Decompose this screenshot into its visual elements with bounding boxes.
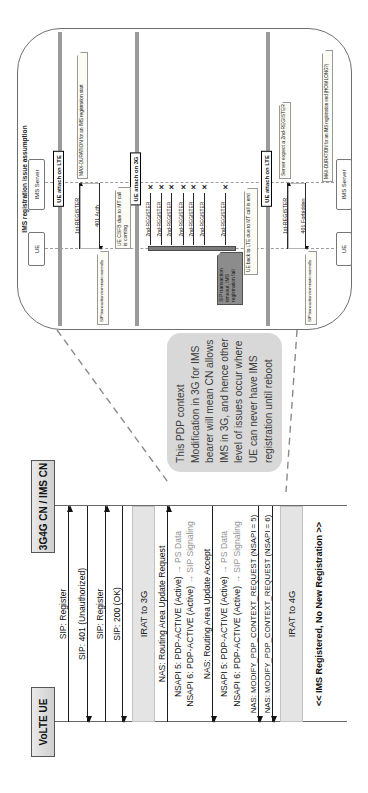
callout-line: registration until reboot [262,333,277,463]
note-back-to-lte: UE back to LTE due to MT call is end [244,188,258,275]
band-irat-to-3g: IRAT to 3G [132,506,155,722]
note-csfb: UE CSFB due to MT call is coming [115,187,131,249]
band-irat-to-4g: IRAT to 4G [280,506,303,722]
note-terminate-normally-2: SIP transaction terminate normally [305,251,317,325]
message-sip-register-1: SIP: Register [56,506,69,722]
callout-line: level of issues occur where [232,333,247,463]
phase-label-lte-2: UE attach on LTE [261,151,272,207]
inset-message-2nd-register: 2nd-REGISTER ✕ [175,193,184,245]
inset-participant-ims-server-top: IMS Server [28,159,45,210]
status-nsapi6-1: NSAPI 6: PDP-ACTIVE (Active) → SIP Signa… [183,506,196,722]
inset-title: IMS registration issue assumption [21,29,28,329]
arrowhead-left-icon [271,716,277,723]
participant-cn: 3G4G CN / IMS CN [31,460,55,553]
callout-line: Modification in 3G for IMS [189,333,204,463]
inset-message-1st-register-1: 1st-REGISTER [71,183,80,249]
inset-message-2nd-register: 2nd-REGISTER ✕ [196,193,205,245]
arrowhead-right-icon [104,505,110,512]
inset-message-2nd-register: 2nd-REGISTER ✕ [142,193,151,245]
message-rau-request: NAS: Routing Area Update Request [155,506,168,722]
arrowhead-right-icon [287,182,291,186]
callout-line: bearer will mean CN allows [203,333,218,463]
phase-label-3g: UE attach on 3G [130,153,141,206]
status-nsapi6-2: NSAPI 6: PDP-ACTIVE (Active) → SIP Signa… [230,506,243,722]
rotated-sequence-diagram: VoLTE UE 3G4G CN / IMS CN SIP: Register … [0,0,368,793]
inset-message-2nd-register: 2nd-REGISTER ✕ [217,193,226,245]
arrowhead-left-icon [86,716,92,723]
inset-message-1st-register-2: 1st-REGISTER [279,183,288,249]
message-rau-accept: NAS: Routing Area Update Accept [200,506,213,722]
arrowhead-left-icon [99,246,103,250]
fail-x-icon: ✕ [158,184,166,190]
fail-x-icon: ✕ [190,184,198,190]
inset-message-2nd-register: 2nd-REGISTER ✕ [185,193,194,245]
callout-note: This PDP context Modification in 3G for … [167,333,282,472]
participant-volte-ue: VoLTE UE [31,687,55,757]
note-terminate-normally-1: SIP transaction terminate normally [97,251,109,325]
inset-participant-ue-bottom: UE [336,232,352,266]
note-max-duration-start: MAX-DURATION for an IMS registration sta… [77,52,88,179]
fail-x-icon: ✕ [147,184,155,190]
fail-x-icon: ✕ [201,184,209,190]
fail-x-icon: ✕ [180,184,188,190]
message-sip-401: SIP: 401 (Unauthorized) [75,506,88,722]
ue-activation-bar [148,247,236,252]
message-modify-pdp-5: NAS: MODIFY_PDP_CONTEXT_REQUEST (NSAPI =… [246,506,259,722]
inset-message-401-auth: 401 Auth [91,183,100,249]
inset-message-2nd-register: 2nd-REGISTER ✕ [153,193,162,245]
inset-participant-ims-server-bottom: IMS Server [336,159,352,210]
callout-line: IMS in 3G, and hence other [218,333,233,463]
arrowhead-right-icon [67,505,73,512]
inset-message-401-forbidden: 401 Forbidden [297,183,306,249]
callout-line: This PDP context [174,333,189,463]
arrowhead-right-icon [79,182,83,186]
status-nsapi5-2: NSAPI 5: PDP-ACTIVE (Active) → PS Data [217,506,230,722]
arrowhead-left-icon [305,246,309,250]
note-timeout-fail: SIP transaction timeout, IMS registratio… [217,252,243,305]
message-modify-pdp-6: NAS: MODIFY_PDP_CONTEXT_REQUEST (NSAPI =… [260,506,273,722]
inset-participant-ue-top: UE [28,232,45,266]
status-ims-registered: << IMS Registered, No New Registration >… [314,506,324,722]
phase-label-lte-1: UE attach on LTE [53,151,64,207]
inset-ims-issue-diagram: IMS registration issue assumption UE IMS… [17,28,352,330]
fail-x-icon: ✕ [222,184,230,190]
callout-line: UE can never have IMS [247,333,262,463]
fail-x-icon: ✕ [168,184,176,190]
arrowhead-left-icon [121,716,127,723]
arrowhead-left-icon [211,716,217,723]
message-sip-200: SIP: 200 (OK) [110,506,123,722]
note-server-expect: Server expect a 2nd-REGISTER [279,102,291,179]
participant-cn-label: 3G4G CN / IMS CN [38,463,49,550]
message-sip-register-2: SIP: Register [93,506,106,722]
inset-message-2nd-register: 2nd-REGISTER ✕ [163,193,172,245]
note-max-duration-end: MAX-DURATION for an IMS registration end… [322,50,333,182]
participant-volte-ue-label: VoLTE UE [38,699,49,746]
